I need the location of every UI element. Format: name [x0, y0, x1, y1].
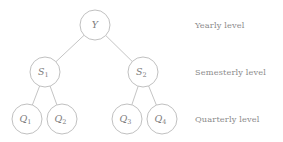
- tree-node-q3[interactable]: Q3: [112, 104, 142, 134]
- tree-node-q2[interactable]: Q2: [47, 104, 77, 134]
- hierarchical-tree-diagram: YS1S2Q1Q2Q3Q4 Yearly levelSemesterly lev…: [0, 0, 283, 142]
- tree-node-s2[interactable]: S2: [128, 57, 158, 87]
- tree-edge-s2-q3: [132, 86, 138, 105]
- level-label-0: Yearly level: [195, 21, 245, 29]
- level-label-1: Semesterly level: [195, 68, 266, 76]
- tree-node-s1[interactable]: S1: [30, 57, 60, 87]
- nodes-group: YS1S2Q1Q2Q3Q4: [12, 10, 177, 134]
- tree-edge-s1-q2: [50, 86, 57, 105]
- level-label-2: Quarterly level: [195, 115, 259, 123]
- tree-edge-y-s1: [56, 35, 84, 61]
- tree-edge-s1-q1: [32, 86, 39, 105]
- tree-node-q4[interactable]: Q4: [147, 104, 177, 134]
- tree-node-y[interactable]: Y: [80, 10, 110, 40]
- tree-edge-y-s2: [106, 35, 133, 61]
- tree-edge-s2-q4: [149, 86, 157, 105]
- tree-node-q1[interactable]: Q1: [12, 104, 42, 134]
